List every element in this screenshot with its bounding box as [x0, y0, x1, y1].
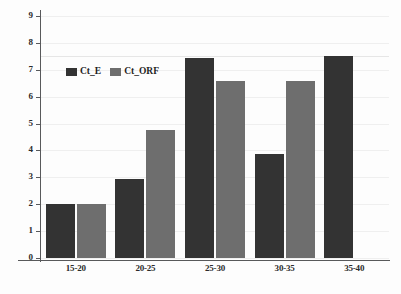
y-tick-label: 1 [7, 226, 33, 235]
bar-ct_e-25-30 [185, 58, 214, 258]
y-tick-mark [36, 177, 41, 178]
bar-ct_orf-30-35 [286, 81, 315, 258]
bar-chart: 0123456789 15-2020-2525-3030-3535-40 Ct_… [0, 0, 401, 294]
bars [41, 16, 389, 258]
y-tick-mark [36, 204, 41, 205]
y-tick-label: 5 [7, 119, 33, 128]
x-tick-label: 25-30 [180, 263, 250, 274]
x-axis-labels: 15-2020-2525-3030-3535-40 [41, 263, 389, 281]
y-tick-mark [36, 97, 41, 98]
y-tick-mark [36, 124, 41, 125]
x-tick-label: 30-35 [250, 263, 320, 274]
y-tick-mark [36, 150, 41, 151]
bar-ct_orf-20-25 [146, 130, 175, 258]
x-tick-label: 20-25 [110, 263, 180, 274]
legend-entry-ct_e: Ct_E [66, 67, 101, 77]
legend-swatch-icon [66, 68, 77, 76]
gridline [41, 258, 389, 259]
bar-group [185, 16, 245, 258]
bar-group [46, 16, 106, 258]
y-tick-label: 9 [7, 11, 33, 20]
x-tick-label: 15-20 [41, 263, 111, 274]
y-tick-label: 2 [7, 199, 33, 208]
plot-area [41, 16, 389, 258]
x-axis-line [18, 260, 390, 261]
legend-label: Ct_E [80, 67, 101, 77]
y-tick-label: 8 [7, 38, 33, 47]
y-tick-mark [36, 258, 41, 259]
bar-ct_e-35-40 [324, 56, 353, 258]
y-tick-label: 6 [7, 92, 33, 101]
bar-group [324, 16, 384, 258]
bar-ct_e-30-35 [255, 154, 284, 258]
bar-group [115, 16, 175, 258]
bar-ct_orf-25-30 [216, 81, 245, 258]
bar-ct_orf-15-20 [77, 204, 106, 258]
y-axis-labels: 0123456789 [0, 0, 33, 294]
legend-swatch-icon [110, 68, 121, 76]
y-tick-mark [36, 43, 41, 44]
chart-legend: Ct_ECt_ORF [66, 67, 159, 77]
y-tick-label: 4 [7, 145, 33, 154]
x-tick-label: 35-40 [319, 263, 389, 274]
y-tick-mark [36, 16, 41, 17]
legend-entry-ct_orf: Ct_ORF [110, 67, 159, 77]
bar-group [255, 16, 315, 258]
y-tick-mark [36, 70, 41, 71]
bar-ct_e-15-20 [46, 204, 75, 258]
y-tick-label: 3 [7, 172, 33, 181]
y-tick-mark [36, 231, 41, 232]
legend-label: Ct_ORF [124, 67, 159, 77]
y-tick-label: 7 [7, 65, 33, 74]
bar-ct_e-20-25 [115, 179, 144, 258]
